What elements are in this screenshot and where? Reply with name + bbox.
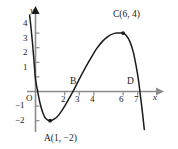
origin-label: O	[26, 94, 33, 103]
point-label-b: B	[70, 77, 76, 87]
y-tick-label-2: 2	[23, 48, 28, 57]
x-tick-label-6: 6	[119, 95, 124, 104]
graph-figure: 4 3 2 1 −1 −2 O 2 3 4 6 7 y x A(1, −2) B…	[0, 0, 178, 149]
point-label-c: C(6, 4)	[113, 10, 140, 20]
y-axis-label: y	[30, 6, 34, 15]
x-tick-label-4: 4	[90, 95, 95, 104]
x-axis-label: x	[153, 93, 157, 102]
x-tick-label-3: 3	[75, 95, 80, 104]
y-tick-label-3: 3	[23, 34, 28, 43]
function-curve	[30, 16, 145, 130]
y-tick-label-4: 4	[23, 19, 28, 28]
y-tick-label-neg2: −2	[15, 116, 25, 125]
point-marker-c	[121, 31, 125, 35]
point-marker-a	[48, 119, 52, 123]
y-tick-label-neg1: −1	[15, 101, 25, 110]
point-label-d: D	[127, 77, 134, 87]
x-tick-label-7: 7	[134, 95, 139, 104]
y-tick-label-1: 1	[23, 63, 28, 72]
point-label-a: A(1, −2)	[44, 134, 77, 144]
x-tick-label-2: 2	[61, 95, 66, 104]
